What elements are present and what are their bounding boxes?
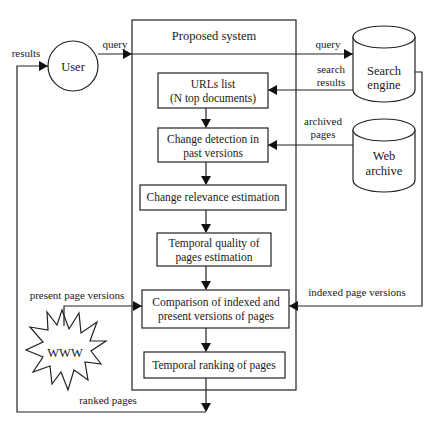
step-temporal-quality: Temporal quality of pages estimation	[157, 233, 271, 266]
search-results-label-1: search	[317, 63, 346, 75]
step-urls-list: URLs list (N top documents)	[158, 73, 268, 108]
arrowhead-icon	[268, 85, 277, 95]
arrowhead-icon	[201, 281, 211, 290]
indexed-page-versions-label: indexed page versions	[308, 286, 406, 298]
search-engine-label-2: engine	[367, 78, 401, 92]
svg-text:present versions of pages: present versions of pages	[158, 310, 274, 323]
arrowhead-icon	[123, 49, 132, 59]
web-archive-label-1: Web	[373, 149, 396, 163]
system-diagram: Proposed system User query query Search …	[0, 0, 439, 429]
arrowhead-icon	[289, 301, 298, 311]
step-change-relevance: Change relevance estimation	[140, 185, 286, 210]
arrowhead-icon	[201, 176, 211, 185]
results-label: results	[12, 47, 41, 59]
arrowhead-icon	[201, 343, 211, 352]
svg-text:URLs list: URLs list	[191, 78, 236, 90]
present-page-versions-label: present page versions	[30, 289, 125, 301]
svg-text:pages estimation: pages estimation	[176, 251, 253, 264]
arrowhead-icon	[201, 403, 211, 412]
archived-pages-edge: archived pages	[268, 115, 353, 150]
svg-text:(N top documents): (N top documents)	[170, 92, 256, 105]
web-archive-node: Web archive	[353, 119, 415, 192]
proposed-system-title: Proposed system	[172, 29, 257, 43]
ranked-pages-label: ranked pages	[79, 394, 137, 406]
svg-text:past versions: past versions	[183, 147, 243, 160]
step-comparison: Comparison of indexed and present versio…	[142, 290, 289, 328]
archived-pages-label-1: archived	[304, 115, 342, 127]
arrowhead-icon	[201, 224, 211, 233]
arrowhead-icon	[39, 61, 48, 71]
svg-text:Temporal ranking of pages: Temporal ranking of pages	[152, 359, 276, 372]
web-archive-label-2: archive	[366, 164, 403, 178]
query-label-engine: query	[315, 38, 341, 50]
arrowhead-icon	[201, 119, 211, 128]
svg-text:Change relevance estimation: Change relevance estimation	[147, 191, 280, 204]
user-node: User	[48, 41, 98, 91]
query-label-user: query	[102, 38, 128, 50]
search-results-label-2: results	[317, 76, 346, 88]
svg-text:Comparison of indexed and: Comparison of indexed and	[152, 296, 280, 309]
archived-pages-label-2: pages	[310, 128, 335, 140]
search-engine-label-1: Search	[367, 64, 402, 78]
step-change-detection: Change detection in past versions	[158, 128, 268, 162]
step-temporal-ranking: Temporal ranking of pages	[144, 352, 285, 378]
svg-text:Change detection in: Change detection in	[167, 133, 259, 146]
present-page-versions-edge: present page versions	[30, 289, 142, 326]
arrowhead-icon	[268, 140, 277, 150]
indexed-page-versions-edge: indexed page versions	[289, 72, 422, 311]
search-engine-node: Search engine	[353, 26, 415, 102]
search-results-edge: search results	[268, 63, 353, 95]
svg-text:Temporal quality of: Temporal quality of	[168, 237, 259, 250]
www-label: WWW	[47, 346, 83, 360]
www-node: WWW	[26, 310, 106, 390]
user-label: User	[61, 60, 85, 74]
arrowhead-icon	[344, 49, 353, 59]
arrowhead-icon	[133, 301, 142, 311]
